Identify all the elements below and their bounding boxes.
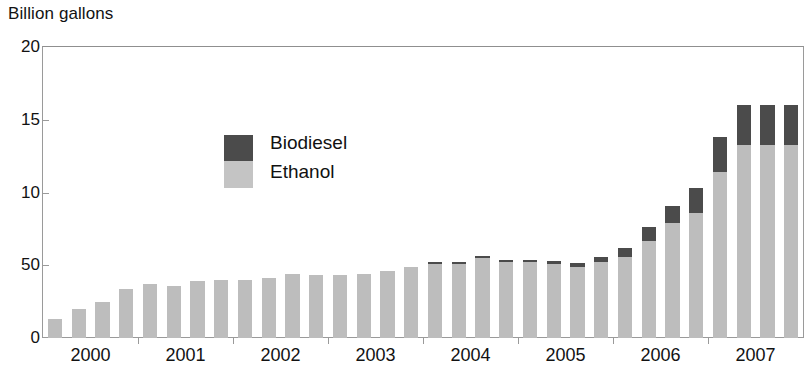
bar (238, 280, 252, 338)
y-axis-title: Billion gallons (8, 4, 113, 24)
bar-segment-ethanol (642, 241, 656, 338)
bar-segment-biodiesel (689, 188, 703, 213)
bar (642, 227, 656, 338)
x-axis-tick-mark (328, 338, 329, 344)
bar-segment-biodiesel (475, 256, 489, 258)
bar-segment-ethanol (713, 172, 727, 338)
bar-segment-biodiesel (499, 260, 513, 262)
bar (190, 281, 204, 338)
bar-segment-ethanol (618, 257, 632, 338)
bar-segment-ethanol (190, 281, 204, 338)
y-axis-tick-label: 10 (0, 183, 40, 203)
bar (570, 263, 584, 338)
bar-segment-ethanol (167, 286, 181, 338)
x-axis-tick-mark (708, 338, 709, 344)
bar (737, 105, 751, 338)
x-axis-tick-mark (138, 338, 139, 344)
bar (760, 105, 774, 338)
bar (475, 256, 489, 338)
x-axis-tick-mark (423, 338, 424, 344)
bar-segment-biodiesel (523, 260, 537, 262)
x-axis-tick-label: 2005 (545, 345, 585, 366)
bar-segment-ethanol (119, 289, 133, 338)
bar-segment-biodiesel (737, 105, 751, 144)
bar-segment-biodiesel (760, 105, 774, 144)
bar (452, 262, 466, 338)
bar-segment-ethanol (333, 275, 347, 338)
bar (689, 188, 703, 338)
bar-segment-biodiesel (594, 257, 608, 263)
bar (499, 260, 513, 338)
bar (48, 319, 62, 338)
bar-segment-ethanol (238, 280, 252, 338)
bar (618, 248, 632, 338)
bar (167, 286, 181, 338)
y-axis-tick-label: 15 (0, 110, 40, 130)
bar (665, 206, 679, 338)
bar-segment-biodiesel (452, 262, 466, 264)
x-axis-tick-label: 2004 (450, 345, 490, 366)
bar-segment-ethanol (594, 262, 608, 338)
bar-segment-ethanol (214, 280, 228, 338)
bar (713, 137, 727, 338)
bar (72, 309, 86, 338)
x-axis-tick-label: 2007 (735, 345, 775, 366)
bar-segment-ethanol (380, 271, 394, 338)
bar (784, 105, 798, 338)
legend-swatch (224, 135, 253, 188)
x-axis-tick-label: 2001 (165, 345, 205, 366)
y-axis-tick-label: 0 (0, 328, 40, 348)
bar-segment-ethanol (475, 258, 489, 338)
y-axis-tick-label: 50 (0, 255, 40, 275)
bar (404, 267, 418, 338)
x-axis-tick-label: 2002 (260, 345, 300, 366)
bar (119, 289, 133, 338)
bar-segment-biodiesel (547, 261, 561, 264)
bar (523, 260, 537, 338)
legend-label-biodiesel: Biodiesel (270, 132, 347, 154)
bar-segment-ethanol (737, 145, 751, 339)
bar-segment-ethanol (547, 264, 561, 338)
x-axis-tick-mark (613, 338, 614, 344)
bar-segment-ethanol (760, 145, 774, 339)
x-axis-tick-label: 2000 (70, 345, 110, 366)
x-axis-tick-label: 2006 (640, 345, 680, 366)
bar (95, 302, 109, 338)
bar-segment-ethanol (95, 302, 109, 338)
x-axis-tick-label: 2003 (355, 345, 395, 366)
x-axis-tick-mark (233, 338, 234, 344)
bar (547, 261, 561, 338)
legend-label-ethanol: Ethanol (270, 161, 334, 183)
bar-segment-ethanol (357, 274, 371, 338)
bar (262, 278, 276, 338)
bar-segment-ethanol (143, 284, 157, 338)
bar (594, 257, 608, 338)
bar-segment-biodiesel (713, 137, 727, 172)
bars-layer (43, 47, 803, 338)
bar (285, 274, 299, 338)
bar-segment-ethanol (499, 262, 513, 338)
bar (214, 280, 228, 338)
y-axis-tick-label: 20 (0, 37, 40, 57)
bar-segment-ethanol (404, 267, 418, 338)
bar (428, 263, 442, 338)
bar (143, 284, 157, 338)
bar-segment-ethanol (262, 278, 276, 338)
bar (309, 275, 323, 338)
bar (357, 274, 371, 338)
bar-segment-biodiesel (642, 227, 656, 240)
bar-segment-biodiesel (428, 262, 442, 264)
bar-segment-ethanol (689, 213, 703, 338)
bar-segment-ethanol (72, 309, 86, 338)
x-axis-tick-mark (518, 338, 519, 344)
legend-swatch-ethanol (224, 161, 253, 188)
bar-segment-ethanol (523, 262, 537, 338)
bar-segment-ethanol (309, 275, 323, 338)
bar-segment-ethanol (665, 223, 679, 338)
bar-segment-ethanol (784, 145, 798, 339)
bar-segment-biodiesel (665, 206, 679, 223)
bar-segment-ethanol (285, 274, 299, 338)
bar-segment-biodiesel (570, 263, 584, 267)
bar-segment-biodiesel (784, 105, 798, 144)
bar-segment-ethanol (48, 319, 62, 338)
